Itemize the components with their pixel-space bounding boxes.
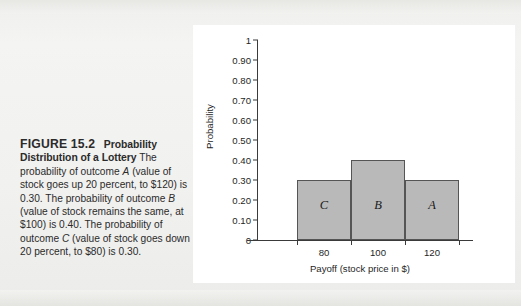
x-axis-tick-mark [405, 240, 406, 245]
y-axis-tick-label: 1 [205, 35, 251, 46]
figure-number: FIGURE 15.2 [20, 137, 95, 151]
figure-caption-block: FIGURE 15.2 Probability Distribution of … [20, 138, 192, 259]
y-axis-tick-label: 0.10 [205, 215, 251, 226]
bar-label: A [406, 198, 458, 213]
bar[interactable]: B [351, 160, 405, 240]
scan-edge-top [0, 0, 521, 14]
y-axis-tick-label: 0.90 [205, 55, 251, 66]
x-axis-line [247, 240, 473, 241]
y-axis-tick-label: 0.20 [205, 195, 251, 206]
x-axis-tick-label: 80 [297, 247, 351, 258]
y-axis-tick-label: 0 [205, 235, 251, 246]
x-axis-tick-mark [351, 240, 352, 245]
y-axis-tick-labels: 10.900.800.700.600.500.400.300.200.100 [205, 25, 251, 283]
plot-area: Probability 10.900.800.700.600.500.400.3… [193, 25, 515, 283]
caption-gap [95, 139, 104, 150]
figure-caption-text: The probability of outcome A (value of s… [20, 152, 190, 257]
bar[interactable]: A [405, 180, 459, 240]
y-axis-tick-label: 0.70 [205, 95, 251, 106]
chart-panel: Probability 10.900.800.700.600.500.400.3… [193, 25, 515, 283]
scan-edge-bottom [0, 290, 521, 306]
bar-label: C [298, 198, 350, 213]
x-axis-tick-label: 120 [405, 247, 459, 258]
bar[interactable]: C [297, 180, 351, 240]
x-axis-tick-label: 100 [351, 247, 405, 258]
y-axis-tick-label: 0.60 [205, 115, 251, 126]
x-axis-title: Payoff (stock price in $) [247, 263, 473, 274]
y-axis-tick-label: 0.50 [205, 135, 251, 146]
x-axis-tick-mark [459, 240, 460, 245]
x-axis-tick-mark [297, 240, 298, 245]
y-axis-tick-label: 0.30 [205, 175, 251, 186]
y-axis-tick-label: 0.80 [205, 75, 251, 86]
y-axis-tick-label: 0.40 [205, 155, 251, 166]
outcome-b-symbol: B [168, 193, 175, 204]
bar-label: B [352, 198, 404, 213]
bar-series: CBA [257, 40, 473, 240]
